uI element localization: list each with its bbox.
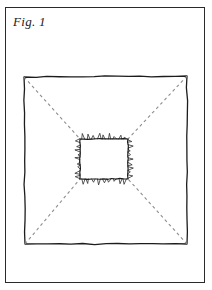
figure-drawing-canvas: [0, 0, 212, 290]
page-background: [0, 0, 212, 290]
figure-page: Fig. 1: [0, 0, 212, 290]
figure-label: Fig. 1: [13, 14, 46, 29]
